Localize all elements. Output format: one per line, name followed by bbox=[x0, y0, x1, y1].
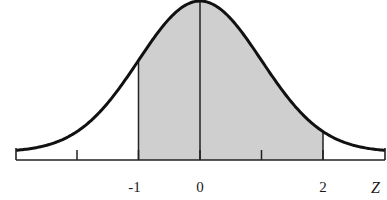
tick-label-z-2: 2 bbox=[319, 179, 327, 195]
tick-label-z-0: 0 bbox=[196, 179, 204, 195]
axis-tick-labels: -102 bbox=[128, 179, 327, 195]
x-axis-label: Z bbox=[371, 179, 381, 196]
tick-label-z--1: -1 bbox=[128, 179, 141, 195]
shaded-area bbox=[139, 1, 324, 160]
normal-distribution-chart: -102 Z bbox=[0, 0, 387, 200]
